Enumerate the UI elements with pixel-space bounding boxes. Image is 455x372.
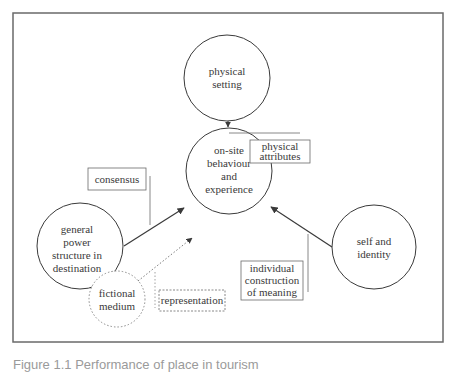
node-self-line1: self and: [357, 235, 392, 247]
node-center-line4: experience: [205, 183, 253, 195]
node-center-line2: behaviour: [207, 157, 251, 169]
edge-self-to-center: [271, 207, 332, 247]
label-representation-text: representation: [161, 294, 224, 306]
label-individual-line2: construction: [245, 274, 300, 286]
node-power-line2: power: [63, 236, 91, 248]
label-representation: representation: [159, 290, 225, 311]
label-consensus: consensus: [88, 168, 146, 190]
node-self-identity: self and identity: [332, 205, 416, 289]
node-power-line3: structure in: [52, 249, 102, 261]
node-physical-setting-line1: physical: [209, 65, 246, 77]
node-physical-setting-line2: setting: [212, 78, 242, 90]
label-individual-construction: individual construction of meaning: [241, 261, 303, 300]
node-center-line1: on-site: [214, 144, 244, 156]
node-fictional-medium: fictional medium: [89, 271, 145, 327]
node-power-line4: destination: [53, 262, 102, 274]
label-individual-line1: individual: [250, 262, 295, 274]
node-physical-setting: physical setting: [184, 35, 270, 121]
label-physical-attributes-line2: attributes: [260, 150, 301, 162]
node-power-line1: general: [61, 223, 93, 235]
node-center-line3: and: [221, 170, 237, 182]
node-self-line2: identity: [357, 248, 391, 260]
figure-caption: Figure 1.1 Performance of place in touri…: [13, 357, 259, 372]
label-consensus-text: consensus: [95, 173, 140, 185]
edge-power-to-center: [124, 208, 184, 246]
label-individual-line3: of meaning: [247, 286, 297, 298]
node-fictional-line1: fictional: [99, 287, 136, 299]
label-physical-attributes: physical attributes: [250, 140, 310, 163]
node-fictional-line2: medium: [99, 300, 135, 312]
edge-fictional-to-center: [138, 238, 192, 281]
